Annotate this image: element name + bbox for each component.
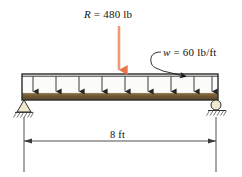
resultant-value: 480 [103,8,120,20]
distributed-load-equals: = [171,46,183,58]
roller-support [207,100,227,116]
distributed-load-symbol: w [163,46,171,58]
resultant-unit: lb [123,8,132,20]
beam-flange [22,93,218,100]
span-dimension-label: 8 ft [110,129,125,140]
span-unit: ft [118,129,125,140]
resultant-force-label: R = 480 lb [84,8,132,20]
roller-support-circle [211,100,221,110]
beam-web [22,74,218,93]
resultant-symbol: R [84,8,91,20]
distributed-load-unit: lb/ft [197,46,216,58]
pin-support-hatching [14,113,34,118]
distributed-load-value: 60 [183,46,194,58]
beam-diagram [0,0,242,177]
leader-curve [151,52,163,71]
pin-support-triangle [17,100,31,112]
resultant-equals: = [91,8,103,20]
pin-support [14,100,34,118]
span-dimension-line [24,117,216,172]
roller-support-hatching [207,111,227,116]
beam [22,74,218,100]
distributed-load-label: w = 60 lb/ft [163,46,217,58]
